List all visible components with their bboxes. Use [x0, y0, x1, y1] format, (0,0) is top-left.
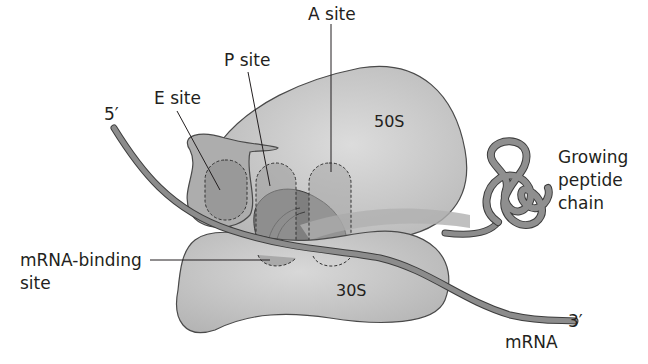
mrna-binding-label-line1: mRNA-binding: [20, 250, 142, 270]
mrna-label: mRNA: [505, 332, 558, 352]
growing-peptide-chain-icon: [486, 141, 548, 225]
peptide-label-line3: chain: [558, 193, 604, 213]
peptide-label-line2: peptide: [558, 170, 623, 190]
five-prime-label: 5′: [104, 104, 119, 124]
e-site-label: E site: [154, 88, 201, 108]
small-subunit-label: 30S: [336, 281, 367, 300]
p-site-label: P site: [224, 50, 270, 70]
e-site-region: [205, 160, 247, 220]
peptide-label-line1: Growing: [558, 147, 628, 167]
large-subunit-label: 50S: [374, 112, 405, 131]
ribosome-diagram: A site P site E site 5′ 50S 30S mRNA-bin…: [0, 0, 648, 364]
three-prime-label: 3′: [568, 311, 583, 331]
mrna-binding-label-line2: site: [20, 273, 51, 293]
a-site-label: A site: [308, 4, 356, 24]
